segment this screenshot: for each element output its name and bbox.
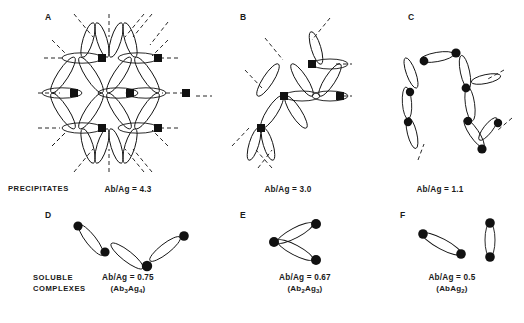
formula-e: (Ab2Ag3) bbox=[255, 283, 355, 295]
row-label-precipitates: PRECIPITATES bbox=[8, 184, 69, 195]
ratio-value-d: Ab/Ag = 0.75 bbox=[102, 273, 154, 282]
panel-letter-f: F bbox=[400, 210, 406, 220]
ratio-label-c: Ab/Ag = 1.1 bbox=[390, 184, 490, 195]
ratio-label-d: Ab/Ag = 0.75 (Ab3Ag4) bbox=[78, 272, 178, 295]
panel-letter-c: C bbox=[408, 12, 415, 22]
panel-letter-a: A bbox=[45, 12, 52, 22]
ratio-value-f: Ab/Ag = 0.5 bbox=[428, 273, 475, 282]
ratio-label-e: Ab/Ag = 0.67 (Ab2Ag3) bbox=[255, 272, 355, 295]
panel-letter-b: B bbox=[240, 12, 247, 22]
formula-f: (AbAg2) bbox=[402, 283, 502, 295]
formula-d: (Ab3Ag4) bbox=[78, 283, 178, 295]
ratio-value-e: Ab/Ag = 0.67 bbox=[279, 273, 331, 282]
ratio-label-f: Ab/Ag = 0.5 (AbAg2) bbox=[402, 272, 502, 295]
ratio-label-b: Ab/Ag = 3.0 bbox=[238, 184, 338, 195]
ratio-label-a: Ab/Ag = 4.3 bbox=[78, 184, 178, 195]
panel-letter-d: D bbox=[45, 210, 52, 220]
panel-letter-e: E bbox=[240, 210, 246, 220]
